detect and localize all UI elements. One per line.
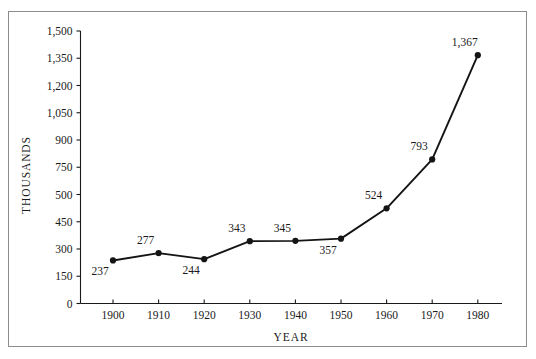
x-axis: 190019101920193019401950196019701980 xyxy=(81,300,503,321)
x-axis-tick-label: 1900 xyxy=(102,309,125,321)
data-point-label: 244 xyxy=(183,264,201,276)
x-axis-title: YEAR xyxy=(274,331,309,343)
data-point-label: 524 xyxy=(365,189,383,201)
data-point-marker xyxy=(338,236,344,242)
y-axis-ticks xyxy=(77,31,81,304)
y-axis-tick-label: 300 xyxy=(55,243,73,255)
y-axis-title: THOUSANDS xyxy=(20,136,32,214)
data-point-marker xyxy=(156,250,162,256)
x-axis-tick-label: 1970 xyxy=(421,309,444,321)
data-point-marker xyxy=(475,52,481,58)
data-point-label: 1,367 xyxy=(452,36,478,49)
data-point-label: 345 xyxy=(274,222,292,234)
data-point-marker xyxy=(247,238,253,244)
y-axis-tick-label: 1,050 xyxy=(47,107,73,120)
x-axis-tick-label: 1950 xyxy=(330,309,353,321)
data-point-label: 277 xyxy=(137,234,155,246)
line-chart: 1,5001,3501,2001,0509007505004503001500 … xyxy=(0,0,536,359)
y-axis-tick-label: 900 xyxy=(55,134,73,146)
data-point-label: 237 xyxy=(91,265,109,277)
x-axis-tick-label: 1960 xyxy=(375,309,398,321)
y-axis-tick-label: 1,500 xyxy=(47,25,73,38)
x-axis-tick-label: 1980 xyxy=(466,309,489,321)
x-axis-tick-label: 1910 xyxy=(147,309,170,321)
data-point-label: 793 xyxy=(411,140,429,152)
y-axis-tick-label: 0 xyxy=(67,298,73,310)
x-axis-tick-label: 1930 xyxy=(238,309,261,321)
x-axis-tick-label: 1940 xyxy=(284,309,307,321)
data-point-marker xyxy=(384,205,390,211)
y-axis-tick-label: 750 xyxy=(55,161,73,173)
x-axis-ticks xyxy=(113,300,478,304)
y-axis-tick-label: 450 xyxy=(55,216,73,228)
y-axis-tick-labels: 1,5001,3501,2001,0509007505004503001500 xyxy=(47,25,73,310)
y-axis: 1,5001,3501,2001,0509007505004503001500 xyxy=(47,25,81,310)
y-axis-tick-label: 1,200 xyxy=(47,80,73,93)
data-series: 2372772443433453575247931,367 xyxy=(91,36,481,277)
data-point-marker xyxy=(429,156,435,162)
data-point-label: 343 xyxy=(228,222,246,234)
data-point-marker xyxy=(110,257,116,263)
x-axis-tick-label: 1920 xyxy=(193,309,216,321)
data-point-marker xyxy=(201,256,207,262)
series-line xyxy=(113,55,478,260)
data-point-label: 357 xyxy=(319,244,337,256)
x-axis-tick-labels: 190019101920193019401950196019701980 xyxy=(102,309,490,321)
y-axis-tick-label: 1,350 xyxy=(47,52,73,65)
y-axis-tick-label: 150 xyxy=(55,270,73,282)
data-markers xyxy=(110,52,481,263)
data-point-marker xyxy=(292,238,298,244)
chart-figure: 1,5001,3501,2001,0509007505004503001500 … xyxy=(0,0,536,359)
y-axis-tick-label: 500 xyxy=(55,189,73,201)
